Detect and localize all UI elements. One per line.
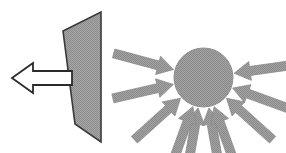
- sphere-body-shape: [174, 48, 233, 107]
- diagram-canvas: [0, 0, 286, 153]
- diagram-root: Flat plate with single directional arrow…: [0, 0, 286, 153]
